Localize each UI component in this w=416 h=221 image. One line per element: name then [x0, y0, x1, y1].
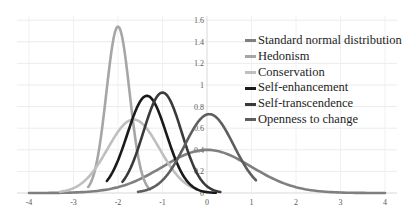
legend-label: Conservation	[258, 65, 325, 81]
legend-swatch-icon	[245, 39, 256, 42]
legend-swatch-icon	[245, 87, 256, 90]
y-tick-label: 1.4	[194, 38, 204, 47]
x-axis-ticks: -4-3-2-101234	[26, 198, 387, 207]
legend-item-standard-normal: Standard normal distribution	[245, 33, 402, 49]
legend-label: Standard normal distribution	[258, 33, 402, 49]
legend-swatch-icon	[245, 55, 256, 58]
legend-item-self-enhancement: Self-enhancement	[245, 80, 402, 96]
legend-item-openness-to-change: Openness to change	[245, 112, 402, 128]
y-tick-label: 1.2	[194, 59, 204, 68]
legend-label: Self-enhancement	[258, 80, 348, 96]
legend-label: Hedonism	[258, 49, 309, 65]
x-tick-label: 3	[339, 198, 343, 207]
legend-label: Openness to change	[258, 112, 358, 128]
y-tick-label: 0.8	[194, 103, 204, 112]
legend-label: Self-transcendence	[258, 96, 353, 112]
x-tick-label: 1	[250, 198, 254, 207]
legend-swatch-icon	[245, 118, 256, 121]
x-tick-label: 4	[383, 198, 387, 207]
y-tick-label: 1.6	[194, 16, 204, 25]
legend-swatch-icon	[245, 103, 256, 106]
x-tick-label: -3	[70, 198, 77, 207]
chart: 00.20.40.60.811.21.41.6 -4-3-2-101234 St…	[0, 0, 416, 221]
x-tick-label: 0	[205, 198, 209, 207]
legend-item-self-transcendence: Self-transcendence	[245, 96, 402, 112]
x-tick-label: -2	[115, 198, 122, 207]
x-tick-label: -1	[159, 198, 166, 207]
x-tick-label: 2	[294, 198, 298, 207]
y-tick-label: 1	[200, 81, 204, 90]
legend-item-hedonism: Hedonism	[245, 49, 402, 65]
legend-item-conservation: Conservation	[245, 65, 402, 81]
legend: Standard normal distribution Hedonism Co…	[245, 33, 402, 128]
x-tick-label: -4	[26, 198, 33, 207]
legend-swatch-icon	[245, 71, 256, 74]
